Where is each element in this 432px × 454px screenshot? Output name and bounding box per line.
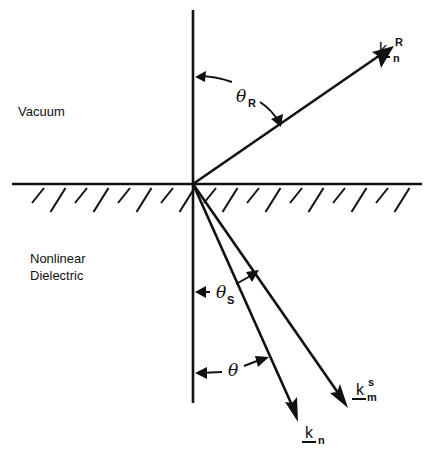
vacuum-label: Vacuum (18, 104, 65, 119)
transmitted-k-subscript: n (318, 434, 325, 446)
scattered-k-superscript: s (368, 376, 374, 388)
transmitted-arrowhead-icon (285, 397, 298, 422)
hatch-mark (395, 188, 410, 212)
hatch-mark (137, 188, 152, 212)
hatch-mark (32, 188, 44, 203)
hatch-mark (352, 188, 367, 212)
theta-r-arrowhead-left-icon (195, 71, 206, 82)
hatch-mark (161, 188, 173, 203)
transmitted-vector-line (193, 184, 295, 412)
hatch-mark (290, 188, 302, 203)
hatch-mark (75, 188, 87, 203)
reflected-k-subscript: n (393, 52, 400, 64)
theta-s-symbol: θ (216, 282, 226, 302)
dielectric-hatching (32, 188, 410, 212)
hatch-mark (266, 188, 281, 212)
theta-r-subscript: R (248, 97, 256, 109)
reflected-vector-line (193, 51, 386, 184)
hatch-mark (223, 188, 238, 212)
hatch-mark (376, 188, 388, 203)
hatch-mark (94, 188, 109, 212)
hatch-mark (51, 188, 66, 212)
theta-s-subscript: S (227, 294, 234, 306)
scattered-k-symbol: k (356, 381, 365, 398)
reflected-k-superscript: R (395, 36, 403, 48)
hatch-mark (333, 188, 345, 203)
hatch-mark (309, 188, 324, 212)
theta-arrowhead-right-icon (255, 356, 269, 367)
theta-arrowhead-left-icon (195, 367, 207, 379)
hatch-mark (118, 188, 130, 203)
dielectric-label-line2: Dielectric (30, 268, 84, 283)
theta-r-symbol: θ (236, 86, 246, 106)
scattered-arrowhead-icon (330, 384, 348, 408)
hatch-mark (247, 188, 259, 203)
theta-symbol: θ (228, 360, 238, 380)
theta-s-arrowhead-left-icon (195, 286, 206, 298)
transmitted-k-symbol: k (305, 424, 314, 441)
reflected-k-symbol: k (379, 40, 388, 57)
scattered-k-subscript: m (367, 391, 377, 403)
dielectric-label-line1: Nonlinear (30, 251, 86, 266)
refraction-diagram: θ R θ S θ Vacuum Nonlinear Dielectric k … (0, 0, 432, 454)
